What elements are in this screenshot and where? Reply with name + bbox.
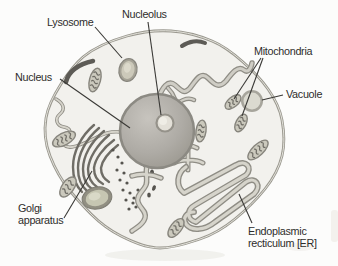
label-lysosome: Lysosome <box>47 16 93 28</box>
scan-smudge <box>105 249 225 261</box>
label-mitochondria: Mitochondria <box>254 45 312 57</box>
label-golgi-apparatus: Golgi apparatus <box>18 202 63 226</box>
label-nucleolus: Nucleolus <box>122 8 167 20</box>
nucleolus-highlight <box>159 117 167 125</box>
nucleus <box>120 94 194 168</box>
label-endoplasmic-reticulum: Endoplasmic recticulum [ER] <box>248 225 317 249</box>
label-nucleus: Nucleus <box>15 71 52 83</box>
scan-strip <box>331 210 338 242</box>
label-vacuole: Vacuole <box>286 88 322 100</box>
cell-diagram-figure: Lysosome Nucleolus Nucleus Mitochondria … <box>0 0 338 266</box>
